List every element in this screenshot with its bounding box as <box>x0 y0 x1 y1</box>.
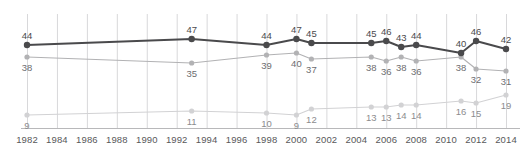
x-axis-tick-label: 1990 <box>136 134 158 145</box>
x-axis-tick-label: 1994 <box>196 134 218 145</box>
x-axis-tick-label: 2004 <box>346 134 368 145</box>
data-point-label: 38 <box>22 62 33 73</box>
data-point-label: 11 <box>187 116 197 127</box>
data-point-label: 16 <box>456 106 467 117</box>
data-point-label: 45 <box>366 28 377 39</box>
x-axis-tick-label: 1998 <box>256 134 278 145</box>
x-axis-tick-label: 2008 <box>405 134 427 145</box>
data-point-label: 10 <box>261 118 272 129</box>
x-axis-tick-label: 2000 <box>286 134 308 145</box>
data-point-label: 46 <box>471 26 482 37</box>
data-point-label: 37 <box>306 64 317 75</box>
data-point-label: 44 <box>261 30 272 41</box>
data-point-label: 15 <box>471 108 482 119</box>
x-axis-tick-label: 2012 <box>465 134 487 145</box>
line-chart: 4447444745454643444046423835394037383638… <box>0 0 528 154</box>
data-point-label: 47 <box>291 24 302 35</box>
x-axis-tick-label: 1988 <box>106 134 128 145</box>
data-point-label: 46 <box>381 26 392 37</box>
x-axis-tick-label: 1984 <box>46 134 68 145</box>
x-axis-tick-label: 1986 <box>76 134 98 145</box>
data-point-label: 12 <box>306 114 317 125</box>
data-point-label: 40 <box>456 38 467 49</box>
data-point-label: 9 <box>294 120 299 131</box>
x-axis-tick-label: 2014 <box>495 134 517 145</box>
data-point-label: 13 <box>366 112 377 123</box>
data-point-label: 43 <box>396 32 407 43</box>
data-point-label: 44 <box>411 30 422 41</box>
x-axis-tick-label: 1992 <box>166 134 188 145</box>
data-point-label: 38 <box>366 62 377 73</box>
data-point-label: 13 <box>381 112 392 123</box>
chart-plot-area <box>0 0 528 154</box>
data-point-label: 42 <box>501 34 512 45</box>
data-point-label: 31 <box>501 76 512 87</box>
x-axis-tick-label: 2006 <box>376 134 398 145</box>
data-point-label: 32 <box>471 74 482 85</box>
data-point-label: 36 <box>411 66 422 77</box>
data-point-label: 38 <box>396 62 407 73</box>
data-point-label: 44 <box>22 30 33 41</box>
x-axis-tick-label: 2010 <box>435 134 457 145</box>
data-point-label: 9 <box>24 120 29 131</box>
x-axis-tick-label: 2002 <box>316 134 338 145</box>
data-point-label: 47 <box>186 24 197 35</box>
x-axis-tick-label: 1996 <box>226 134 248 145</box>
data-point-label: 45 <box>306 28 317 39</box>
data-point-label: 14 <box>396 110 407 121</box>
data-point-label: 36 <box>381 66 392 77</box>
data-point-label: 38 <box>456 62 467 73</box>
data-point-label: 14 <box>411 110 422 121</box>
x-axis-tick-label: 1982 <box>16 134 38 145</box>
data-point-label: 39 <box>261 60 272 71</box>
data-point-label: 40 <box>291 58 302 69</box>
data-point-label: 35 <box>186 68 197 79</box>
data-point-label: 19 <box>501 100 512 111</box>
